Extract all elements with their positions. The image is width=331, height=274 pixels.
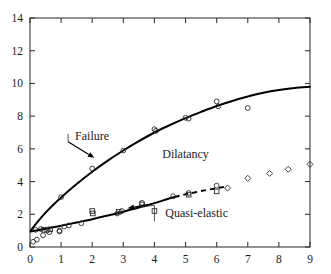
series-5-quasi-elastic-square-points-point-8 [214,189,219,194]
y-tick-label-8: 8 [17,110,23,122]
series-6-upper-scatter-diamond-points-point-1 [245,175,251,181]
chart-figure: 012345678902468101214FailureDilatancyQua… [0,0,331,274]
failure-arrow-shaft [68,142,89,155]
failure-arrow-head [88,152,95,158]
y-tick-label-14: 14 [12,12,24,24]
series-4-quasi-elastic-circle-points-point-10 [140,200,145,205]
series-6-upper-scatter-diamond-points-point-3 [285,166,291,172]
quasi-elastic-arrow-head [128,205,135,210]
quasi-elastic-label: Quasi-elastic [165,206,228,220]
series-6-upper-scatter-diamond-points-point-0 [225,185,231,191]
x-tick-label-9: 9 [307,253,313,265]
series-1-failure-data-points-point-13 [245,106,250,111]
dilatancy-label: Dilatancy [162,147,209,161]
x-tick-label-2: 2 [89,253,95,265]
x-tick-label-0: 0 [27,253,33,265]
y-tick-label-0: 0 [17,241,23,253]
series-2-quasi-elastic-fit-solid-segment [31,197,175,232]
x-tick-label-1: 1 [58,253,64,265]
x-tick-label-8: 8 [276,253,282,265]
series-6-upper-scatter-diamond-points-point-2 [267,170,273,176]
y-tick-label-6: 6 [17,143,23,155]
x-tick-label-4: 4 [152,253,158,265]
y-tick-label-12: 12 [12,45,24,57]
series-4-quasi-elastic-circle-points-point-2 [41,233,46,238]
y-tick-label-10: 10 [12,77,24,89]
chart-plot-area: 012345678902468101214FailureDilatancyQua… [0,0,331,274]
series-4-quasi-elastic-circle-points-point-1 [34,237,39,242]
x-tick-label-6: 6 [214,253,220,265]
x-tick-label-3: 3 [120,253,126,265]
series-1-failure-data-points-point-11 [214,99,219,104]
x-tick-label-7: 7 [245,253,251,265]
series-1-failure-data-points-point-5 [90,166,95,171]
y-tick-label-2: 2 [17,208,23,220]
y-tick-label-4: 4 [17,176,23,188]
series-4-quasi-elastic-circle-points-point-13 [214,183,219,188]
x-tick-label-5: 5 [183,253,189,265]
failure-label: Failure [75,129,109,143]
